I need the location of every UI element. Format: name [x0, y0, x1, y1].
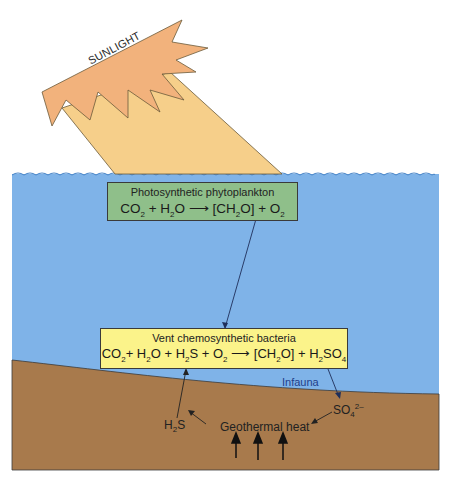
h2s-label: H2S: [164, 418, 185, 434]
reaction-arrow-icon: ⟶: [189, 201, 209, 216]
so4-label: SO42–: [333, 402, 364, 419]
infauna-label: Infauna: [282, 376, 319, 388]
ocean-vent-diagram: [0, 0, 453, 484]
photosynthesis-equation: CO2 + H2O ⟶ [CH2O] + O2: [108, 200, 297, 219]
photosynthesis-box: Photosynthetic phytoplankton CO2 + H2O ⟶…: [107, 182, 298, 221]
reaction-arrow-icon: ⟶: [231, 346, 250, 361]
chemosynthesis-title: Vent chemosynthetic bacteria: [101, 332, 347, 344]
chemosynthesis-equation: CO2+ H2O + H2S + O2 ⟶ [CH2O] + H2SO4: [101, 346, 347, 364]
geothermal-heat-label: Geothermal heat: [220, 420, 309, 434]
photosynthesis-title: Photosynthetic phytoplankton: [108, 186, 297, 198]
chemosynthesis-box: Vent chemosynthetic bacteria CO2+ H2O + …: [100, 328, 348, 369]
